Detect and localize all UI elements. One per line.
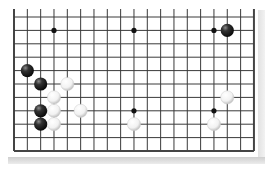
black-stone-icon[interactable] [34,77,47,90]
white-stone-icon[interactable] [207,118,220,131]
black-stone-icon[interactable] [21,64,34,77]
star-point-icon [131,28,136,33]
star-point-icon [51,28,56,33]
black-stone-icon[interactable] [34,118,47,131]
white-stone-icon[interactable] [47,118,60,131]
black-stone-icon[interactable] [221,24,234,37]
black-stone-icon[interactable] [34,104,47,117]
white-stone-icon[interactable] [47,104,60,117]
star-point-icon [131,108,136,113]
star-point-icon [211,28,216,33]
board-grid[interactable] [0,0,275,170]
white-stone-icon[interactable] [127,118,140,131]
white-stone-icon[interactable] [61,77,74,90]
go-board[interactable] [0,0,275,170]
white-stone-icon[interactable] [74,104,87,117]
white-stone-icon[interactable] [47,91,60,104]
star-point-icon [211,108,216,113]
white-stone-icon[interactable] [221,91,234,104]
